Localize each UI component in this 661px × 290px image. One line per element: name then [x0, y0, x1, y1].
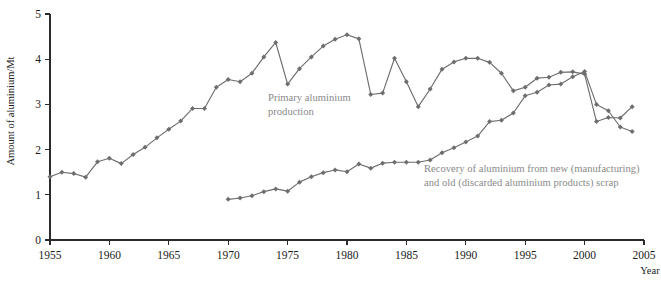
data-point-marker [59, 170, 64, 175]
x-tick-label: 1955 [39, 249, 62, 261]
series-label-line: production [268, 106, 315, 117]
data-point-marker [368, 166, 373, 171]
data-point-marker [202, 106, 207, 111]
data-point-marker [440, 67, 445, 72]
data-point-marker [475, 56, 480, 61]
x-tick-label: 2000 [573, 249, 596, 261]
data-point-marker [333, 37, 338, 42]
y-tick-label: 3 [35, 98, 41, 110]
data-point-marker [404, 79, 409, 84]
data-point-marker [356, 36, 361, 41]
data-point-marker [71, 171, 76, 176]
data-point-marker [380, 161, 385, 166]
y-tick-label: 0 [35, 234, 41, 246]
data-point-marker [594, 102, 599, 107]
series-line [50, 35, 632, 177]
data-point-marker [594, 119, 599, 124]
data-point-marker [535, 90, 540, 95]
y-tick-label: 1 [35, 189, 41, 201]
y-axis-title: Amount of aluminium/Mt [5, 56, 16, 165]
series-label-2: Recovery of aluminium from new (manufact… [424, 163, 640, 189]
data-point-marker [380, 91, 385, 96]
data-point-marker [392, 56, 397, 61]
series-label-line: and old (discarded aluminium products) s… [424, 177, 618, 189]
data-point-marker [428, 157, 433, 162]
x-tick-label: 2005 [633, 249, 656, 261]
x-tick-label: 1985 [395, 249, 418, 261]
data-point-marker [416, 160, 421, 165]
data-point-marker [463, 139, 468, 144]
y-tick-label: 5 [35, 8, 41, 20]
data-point-marker [440, 150, 445, 155]
data-point-marker [333, 167, 338, 172]
data-point-marker [107, 156, 112, 161]
series-label-1: Primary aluminiumproduction [268, 92, 351, 117]
figure-caption-strip [0, 281, 661, 290]
x-tick-label: 1970 [217, 249, 240, 261]
chart-plot-area: 0123451955196019651970197519801985199019… [0, 0, 661, 290]
data-point-marker [261, 189, 266, 194]
data-point-marker [238, 195, 243, 200]
x-tick-label: 1980 [336, 249, 359, 261]
data-point-marker [404, 160, 409, 165]
data-point-marker [48, 174, 53, 179]
x-tick-label: 1965 [157, 249, 180, 261]
data-point-marker [451, 59, 456, 64]
y-tick-label: 2 [35, 144, 41, 156]
data-point-marker [570, 74, 575, 79]
x-tick-label: 1990 [454, 249, 477, 261]
x-axis-title: Year [640, 265, 660, 276]
data-point-marker [606, 115, 611, 120]
data-point-marker [309, 174, 314, 179]
series-1 [48, 32, 635, 179]
x-tick-label: 1975 [276, 249, 299, 261]
data-point-marker [273, 186, 278, 191]
data-point-marker [392, 160, 397, 165]
data-point-marker [570, 69, 575, 74]
data-point-marker [451, 145, 456, 150]
data-point-marker [368, 92, 373, 97]
data-point-marker [546, 75, 551, 80]
data-point-marker [249, 193, 254, 198]
x-tick-label: 1995 [514, 249, 537, 261]
aluminium-production-chart: 0123451955196019651970197519801985199019… [0, 0, 661, 290]
x-tick-label: 1960 [98, 249, 121, 261]
data-point-marker [558, 70, 563, 75]
y-tick-label: 4 [35, 53, 41, 65]
data-point-marker [499, 118, 504, 123]
data-point-marker [463, 56, 468, 61]
series-label-line: Primary aluminium [268, 92, 351, 103]
series-label-line: Recovery of aluminium from new (manufact… [424, 163, 640, 175]
data-point-marker [546, 82, 551, 87]
data-point-marker [321, 170, 326, 175]
data-point-marker [630, 129, 635, 134]
data-point-marker [558, 82, 563, 87]
data-point-marker [345, 32, 350, 37]
data-point-marker [582, 69, 587, 74]
data-point-marker [226, 197, 231, 202]
